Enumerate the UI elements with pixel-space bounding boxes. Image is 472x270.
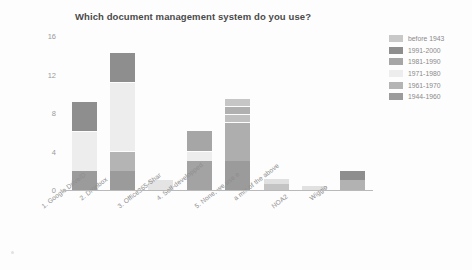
legend-label: 1991-2000 <box>408 47 441 54</box>
legend-swatch-icon <box>389 70 403 77</box>
legend-item-1[interactable]: before 1943 <box>389 33 471 45</box>
bar-segment[interactable] <box>187 130 212 150</box>
chart-title: Which document management system do you … <box>0 11 472 22</box>
plot-area: 04812161. Google Drive/D2. Dropbox3. Off… <box>63 36 370 190</box>
legend-label: before 1943 <box>408 35 444 42</box>
bar-segment[interactable] <box>340 170 365 181</box>
legend-swatch-icon <box>389 35 403 42</box>
chart-figure: Which document management system do you … <box>0 0 472 270</box>
legend-swatch-icon <box>389 82 403 89</box>
bar-segment[interactable] <box>110 151 135 171</box>
bar-segment[interactable] <box>72 131 97 171</box>
bar-segment[interactable] <box>225 106 250 114</box>
legend-swatch-icon <box>389 47 403 54</box>
x-axis-line <box>63 190 373 191</box>
bar-8[interactable] <box>340 170 365 190</box>
legend-label: 1971-1980 <box>408 70 441 77</box>
bar-segment[interactable] <box>225 122 250 162</box>
bar-6[interactable] <box>264 178 289 190</box>
corner-marker <box>11 251 14 254</box>
legend-item-2[interactable]: 1991-2000 <box>389 45 471 57</box>
legend-item-5[interactable]: 1961-1970 <box>389 79 471 91</box>
legend-item-4[interactable]: 1971-1980 <box>389 68 471 80</box>
x-axis-label-7: NOA2 <box>270 193 289 210</box>
legend-swatch-icon <box>389 58 403 65</box>
bar-2[interactable] <box>110 52 135 190</box>
bar-segment[interactable] <box>187 151 212 162</box>
y-axis-tick-8: 8 <box>52 109 56 118</box>
bar-segment[interactable] <box>110 82 135 150</box>
legend-item-3[interactable]: 1981-1990 <box>389 56 471 68</box>
bar-segment[interactable] <box>110 52 135 82</box>
bar-segment[interactable] <box>225 98 250 106</box>
legend-label: 1981-1990 <box>408 58 441 65</box>
legend-label: 1944-1960 <box>408 93 441 100</box>
y-axis-tick-16: 16 <box>48 32 56 41</box>
bar-segment[interactable] <box>340 180 365 190</box>
bar-segment[interactable] <box>72 101 97 131</box>
y-axis-tick-12: 12 <box>48 70 56 79</box>
bar-segment[interactable] <box>225 114 250 122</box>
bar-segment[interactable] <box>110 171 135 190</box>
y-axis-tick-4: 4 <box>52 147 56 156</box>
legend-label: 1961-1970 <box>408 82 441 89</box>
legend-item-6[interactable]: 1944-1960 <box>389 91 471 103</box>
legend-swatch-icon <box>389 93 403 100</box>
chart-legend: before 19431991-20001981-19901971-198019… <box>389 33 471 103</box>
